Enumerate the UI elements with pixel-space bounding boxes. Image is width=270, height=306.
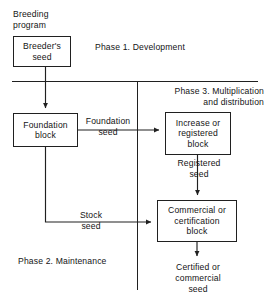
label-phase-3-multiplication-and-distribution: Phase 3. Multiplication and distribution [142, 86, 264, 108]
label-breeding-program: Breeding program [13, 9, 73, 31]
label-phase-1-development: Phase 1. Development [95, 42, 215, 53]
node-breeders-seed: Breeder's seed [13, 36, 71, 67]
flowchart-diagram: Breeder's seed Foundation block Increase… [0, 0, 270, 306]
node-foundation-block: Foundation block [13, 113, 78, 147]
label-certified-or-commercial-seed: Certified or commercial seed [163, 262, 233, 295]
edge-label-registered-seed: Registered seed [170, 158, 228, 180]
label-phase-2-maintenance: Phase 2. Maintenance [18, 256, 138, 267]
node-increase-or-registered-block: Increase or registered block [165, 112, 231, 155]
edge-label-stock-seed: Stock seed [64, 210, 118, 232]
node-commercial-or-certification-block: Commercial or certification block [157, 200, 237, 242]
edge-label-foundation-seed: Foundation seed [80, 116, 136, 138]
